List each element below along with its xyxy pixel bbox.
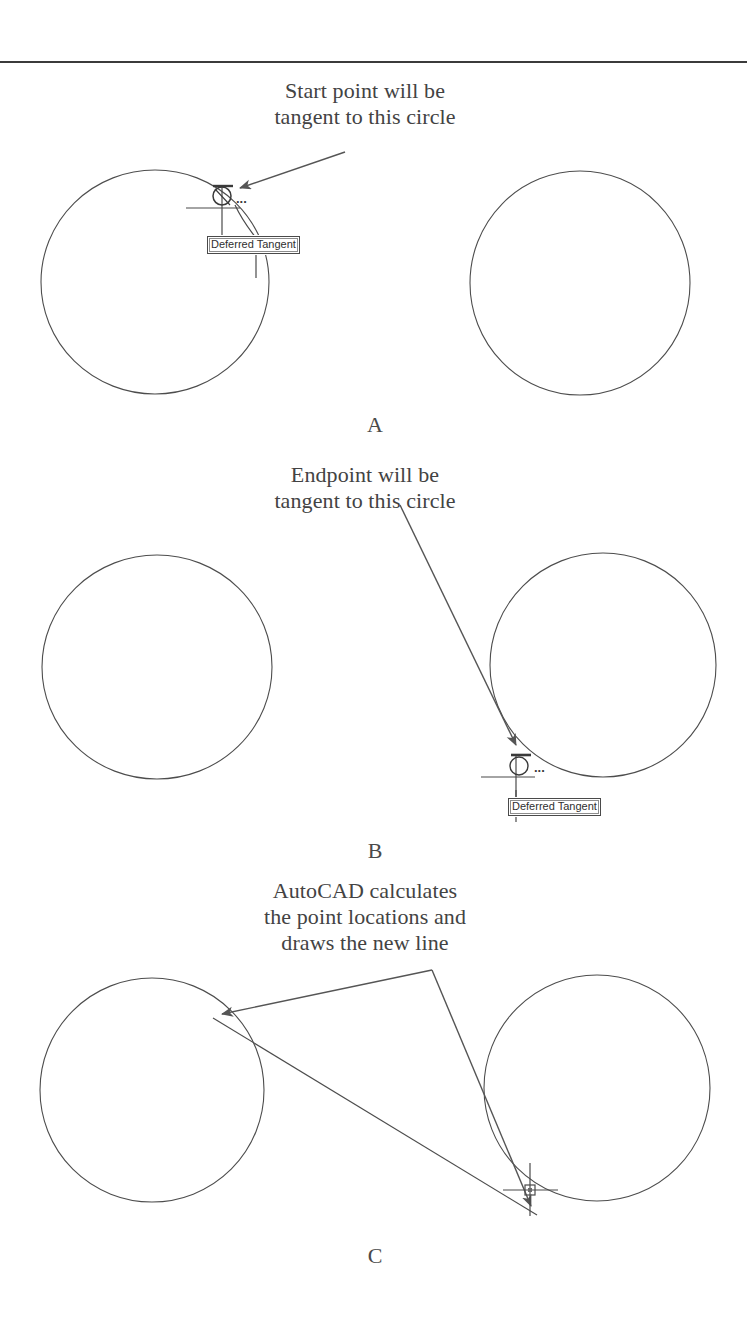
header-rule bbox=[0, 61, 747, 63]
panel-letter-b: B bbox=[355, 838, 395, 864]
caption-panel-c: AutoCAD calculates the point locations a… bbox=[175, 878, 555, 956]
tooltip-deferred-tangent-a: Deferred Tangent bbox=[207, 236, 300, 254]
circle-c-right bbox=[484, 975, 710, 1201]
figure-page: Start point will be tangent to this circ… bbox=[0, 0, 747, 1325]
panel-c-geometry bbox=[40, 970, 710, 1216]
deferred-tangent-marker-a bbox=[213, 186, 233, 205]
panel-letter-a: A bbox=[355, 412, 395, 438]
circle-a-right bbox=[470, 171, 690, 395]
panel-letter-c: C bbox=[355, 1243, 395, 1269]
leader-arrow-a bbox=[240, 152, 345, 188]
tooltip-leader-a bbox=[235, 205, 256, 238]
tangent-line-result bbox=[213, 1018, 537, 1215]
ellipsis-marker-a: ... bbox=[236, 196, 247, 202]
leader-arrow-c-right bbox=[432, 970, 531, 1206]
caption-panel-a: Start point will be tangent to this circ… bbox=[215, 78, 515, 130]
tooltip-deferred-tangent-b: Deferred Tangent bbox=[508, 798, 601, 816]
leader-arrow-b bbox=[400, 505, 516, 745]
panel-a-geometry bbox=[41, 152, 690, 395]
ellipsis-marker-b: ... bbox=[534, 765, 545, 771]
leader-arrow-c-left bbox=[222, 970, 432, 1014]
circle-a-left bbox=[41, 170, 269, 394]
circle-b-left bbox=[42, 555, 272, 779]
circle-b-right bbox=[490, 553, 716, 777]
geometry-layer bbox=[0, 0, 747, 1325]
crosshair-cursor-c bbox=[503, 1163, 558, 1216]
deferred-tangent-marker-b bbox=[510, 755, 531, 775]
caption-panel-b: Endpoint will be tangent to this circle bbox=[215, 462, 515, 514]
panel-b-geometry bbox=[42, 505, 716, 822]
circle-c-left bbox=[40, 978, 264, 1202]
